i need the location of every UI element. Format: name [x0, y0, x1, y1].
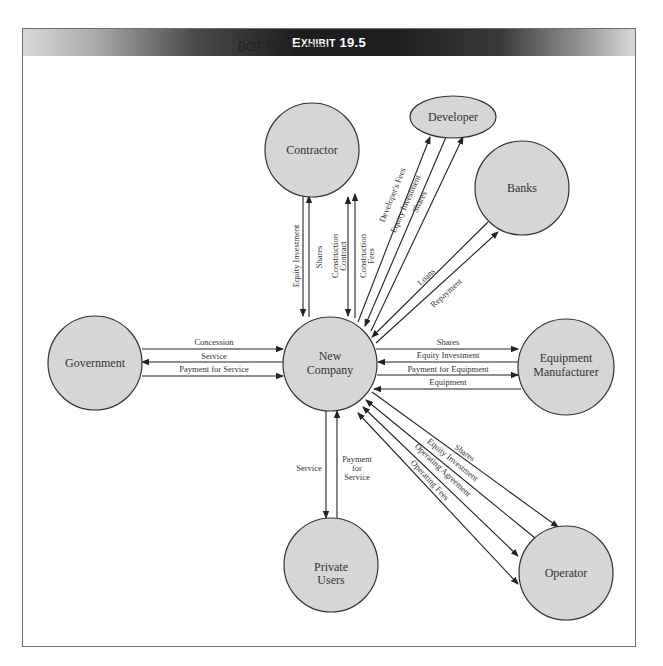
node-government-label: Government	[65, 356, 126, 370]
label-banks-loans: Loans	[415, 266, 437, 287]
edges-contractor: Equity Investment Shares Construction Co…	[291, 194, 376, 318]
edge-banks-repayment	[376, 232, 498, 343]
node-banks-label: Banks	[507, 181, 537, 195]
node-developer: Developer	[410, 96, 496, 138]
node-equipment-manufacturer-label-2: Manufacturer	[533, 365, 598, 379]
label-equipment-equity-investment: Equity Investment	[417, 350, 480, 360]
node-government: Government	[48, 316, 142, 410]
edges-developer: Developer's Fees Equity Investment Share…	[358, 137, 463, 331]
node-operator: Operator	[519, 526, 613, 620]
node-contractor: Contractor	[265, 103, 359, 197]
edge-developer-shares	[371, 137, 463, 331]
node-equipment-manufacturer: Equipment Manufacturer	[518, 319, 614, 415]
edges-banks: Loans Repayment	[372, 222, 498, 343]
node-banks: Banks	[475, 141, 569, 235]
edges-private-users: Service Payment for Service	[296, 411, 372, 518]
edges-equipment-manufacturer: Shares Equity Investment Payment for Equ…	[374, 337, 521, 389]
node-new-company-label-1: New	[319, 349, 342, 363]
label-equipment-payment: Payment for Equipment	[407, 364, 489, 374]
label-contractor-construction-fees-2: Fees	[366, 248, 376, 264]
edge-operator-operating-fees	[358, 413, 518, 584]
label-government-service: Service	[201, 351, 227, 361]
node-private-users-label-1: Private	[314, 560, 348, 574]
label-government-concession: Concession	[194, 337, 234, 347]
label-private-users-payment-3: Service	[344, 472, 370, 482]
label-equipment-shares: Shares	[437, 337, 460, 347]
node-new-company: New Company	[283, 317, 377, 411]
label-contractor-shares: Shares	[314, 246, 324, 269]
node-new-company-label-2: Company	[307, 363, 354, 377]
node-operator-label: Operator	[545, 566, 588, 580]
node-contractor-label: Contractor	[286, 143, 337, 157]
bot-transaction-diagram: Equity Investment Shares Construction Co…	[0, 0, 663, 666]
label-government-payment-for-service: Payment for Service	[179, 364, 249, 374]
label-banks-repayment: Repayment	[428, 276, 464, 310]
node-private-users-label-2: Users	[317, 573, 345, 587]
label-contractor-equity-investment: Equity Investment	[291, 224, 301, 287]
label-contractor-construction-contract-2: Contract	[338, 241, 348, 271]
node-developer-label: Developer	[428, 110, 478, 124]
label-equipment-equipment: Equipment	[429, 377, 467, 387]
node-equipment-manufacturer-label-1: Equipment	[540, 351, 593, 365]
edges-government: Concession Service Payment for Service	[142, 337, 283, 376]
node-private-users: Private Users	[284, 518, 378, 612]
label-private-users-service: Service	[296, 463, 322, 473]
edge-operator-shares	[372, 392, 558, 527]
